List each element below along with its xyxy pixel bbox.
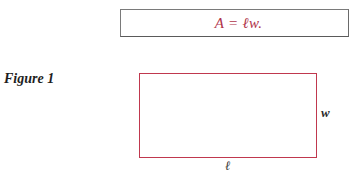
rectangle-diagram	[139, 73, 317, 158]
length-label: ℓ	[225, 158, 230, 174]
width-label: w	[321, 105, 330, 121]
figure-label: Figure 1	[4, 71, 54, 87]
formula-box: A = ℓw.	[120, 9, 349, 37]
area-formula: A = ℓw.	[215, 15, 263, 32]
